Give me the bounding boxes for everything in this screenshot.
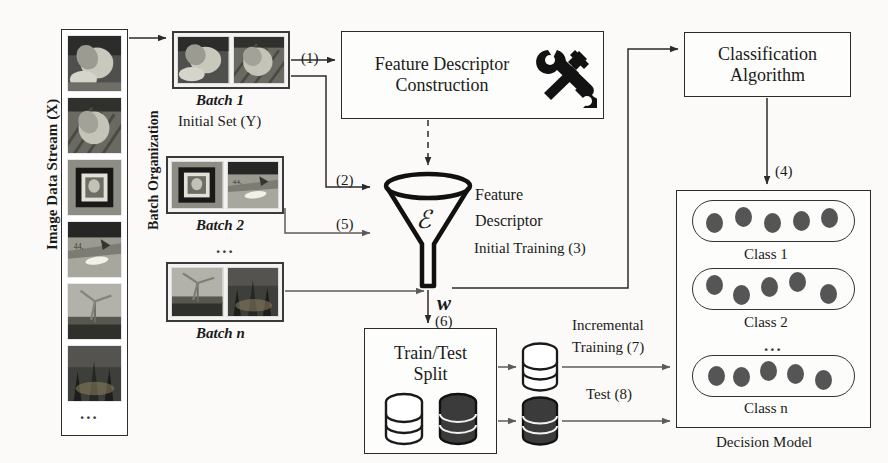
connector-lines — [0, 0, 888, 463]
diagram-canvas: Image Data Stream (X) Batch Organization — [0, 0, 888, 463]
